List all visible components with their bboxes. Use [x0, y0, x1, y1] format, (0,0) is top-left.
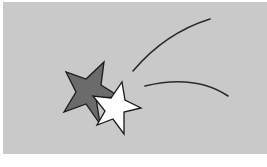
shooting-star-illustration — [0, 0, 267, 167]
trail-upper-line — [133, 19, 210, 71]
image-canvas — [0, 0, 267, 167]
trail-lower-line — [145, 82, 228, 96]
